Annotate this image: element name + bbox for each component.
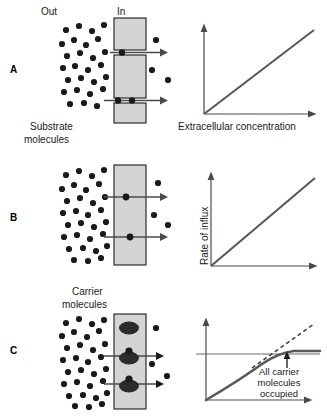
figure-membrane-transport: Out In A bbox=[0, 0, 327, 416]
label-out: Out bbox=[41, 6, 57, 18]
annotation-line1: All carrier bbox=[234, 366, 324, 377]
panel-b-chart bbox=[203, 168, 325, 273]
chart-a-linear-series bbox=[204, 30, 314, 114]
substrate-dots-inside-b bbox=[151, 180, 171, 228]
panel-letter-b: B bbox=[10, 212, 17, 223]
label-in: In bbox=[117, 6, 125, 18]
panel-b-membrane-diagram bbox=[60, 165, 175, 270]
panel-a-chart bbox=[196, 22, 322, 120]
membrane-blocks-a bbox=[114, 18, 146, 123]
substrate-dots-inside-c bbox=[149, 325, 170, 379]
panel-a-membrane-diagram bbox=[60, 18, 175, 118]
panel-a-caption-line2: molecules bbox=[24, 134, 69, 146]
panel-letter-a: A bbox=[10, 64, 17, 75]
substrate-dots-outside-c bbox=[59, 316, 110, 410]
panel-c-membrane-diagram bbox=[60, 314, 175, 412]
panel-a-caption-line1: Substrate bbox=[30, 121, 73, 133]
annotation-line3: occupied bbox=[234, 388, 324, 399]
panel-c-caption-line2: molecules bbox=[62, 299, 107, 311]
panel-c-caption-line1: Carrier bbox=[72, 286, 103, 298]
panel-letter-c: C bbox=[10, 345, 17, 356]
substrate-dots-outside-a bbox=[59, 22, 109, 109]
chart-c-annotation: All carrier molecules occupied bbox=[234, 366, 324, 399]
substrate-dots-outside-b bbox=[59, 167, 110, 264]
membrane-slab-b bbox=[114, 165, 146, 265]
substrate-dots-inside-a bbox=[149, 37, 171, 83]
annotation-line2: molecules bbox=[234, 377, 324, 388]
chart-a-xaxis-label: Extracellular concentration bbox=[178, 121, 296, 133]
chart-c-extrapolated-dashed-series bbox=[252, 324, 314, 368]
chart-b-linear-series bbox=[211, 178, 315, 266]
